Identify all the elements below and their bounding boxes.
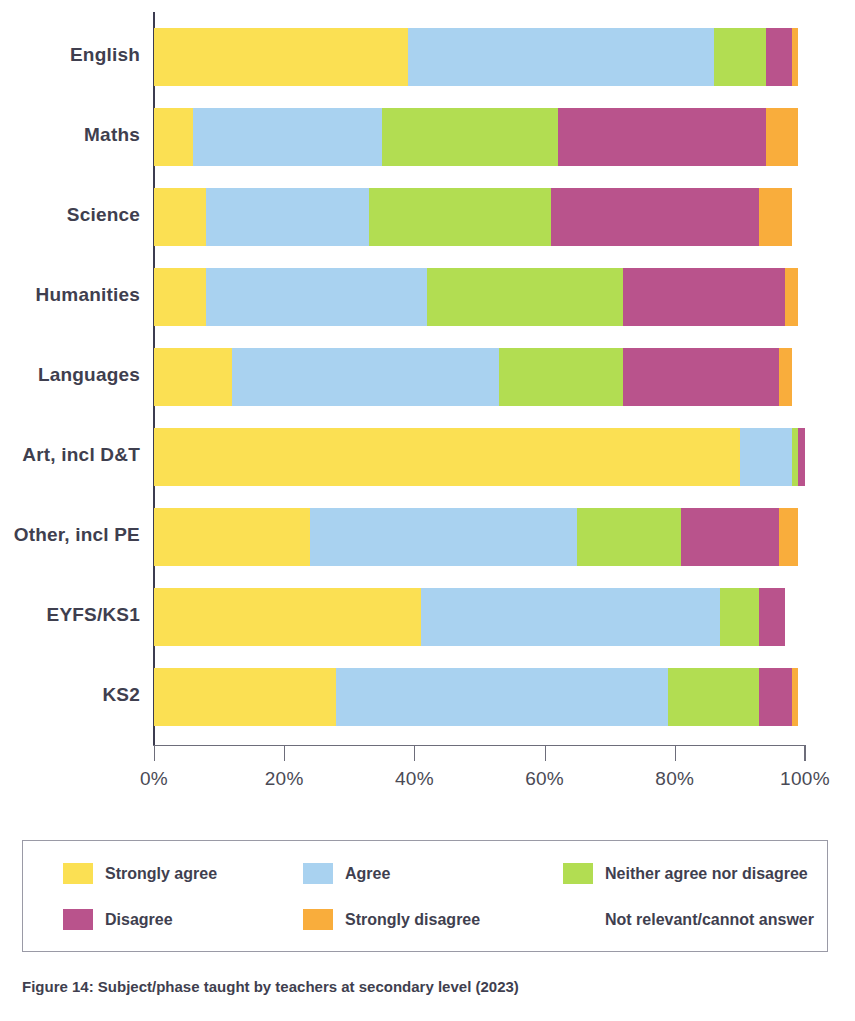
bar-segment-1 xyxy=(154,428,740,486)
bar-segment-3 xyxy=(427,268,622,326)
legend-item[interactable]: Not relevant/cannot answer xyxy=(563,909,814,930)
bar-segment-4 xyxy=(798,428,805,486)
x-tick xyxy=(284,746,285,761)
bar-segment-1 xyxy=(154,588,421,646)
legend-swatch-icon xyxy=(303,863,333,884)
bar-segment-1 xyxy=(154,668,336,726)
x-tick-label: 80% xyxy=(655,768,694,790)
category-label: Languages xyxy=(0,364,140,386)
bar-segment-2 xyxy=(193,108,382,166)
legend-label: Neither agree nor disagree xyxy=(605,865,808,883)
chart-row: Languages xyxy=(0,348,855,406)
category-label: Other, incl PE xyxy=(0,524,140,546)
stacked-bar xyxy=(154,28,798,86)
bar-segment-2 xyxy=(740,428,792,486)
legend-label: Not relevant/cannot answer xyxy=(605,911,814,929)
bar-segment-3 xyxy=(714,28,766,86)
figure-caption: Figure 14: Subject/phase taught by teach… xyxy=(22,978,842,995)
bar-segment-4 xyxy=(681,508,779,566)
x-axis-line xyxy=(153,745,806,746)
x-tick-label: 0% xyxy=(140,768,168,790)
chart-row: Maths xyxy=(0,108,855,166)
legend-swatch-icon xyxy=(563,909,593,930)
bar-segment-2 xyxy=(408,28,714,86)
bar-segment-3 xyxy=(668,668,759,726)
legend-swatch-icon xyxy=(63,909,93,930)
chart-row: KS2 xyxy=(0,668,855,726)
bar-segment-5 xyxy=(779,508,799,566)
bar-segment-4 xyxy=(623,348,779,406)
bar-segment-4 xyxy=(766,28,792,86)
bar-segment-5 xyxy=(792,668,799,726)
legend-item[interactable]: Agree xyxy=(303,863,390,884)
bar-segment-4 xyxy=(759,588,785,646)
stacked-bar xyxy=(154,268,798,326)
bar-segment-4 xyxy=(558,108,766,166)
bar-segment-2 xyxy=(336,668,668,726)
bar-segment-2 xyxy=(310,508,577,566)
chart-row: EYFS/KS1 xyxy=(0,588,855,646)
category-label: EYFS/KS1 xyxy=(0,604,140,626)
chart-row: Art, incl D&T xyxy=(0,428,855,486)
bar-segment-2 xyxy=(421,588,720,646)
chart-row: Other, incl PE xyxy=(0,508,855,566)
legend-swatch-icon xyxy=(63,863,93,884)
bar-segment-1 xyxy=(154,108,193,166)
bar-segment-2 xyxy=(206,268,427,326)
x-tick xyxy=(675,746,676,761)
x-tick-label: 40% xyxy=(395,768,434,790)
legend-swatch-icon xyxy=(563,863,593,884)
bar-segment-3 xyxy=(382,108,558,166)
chart-row: Humanities xyxy=(0,268,855,326)
stacked-bar xyxy=(154,108,798,166)
bar-segment-5 xyxy=(759,188,792,246)
chart-row: Science xyxy=(0,188,855,246)
legend-item[interactable]: Strongly agree xyxy=(63,863,217,884)
stacked-bar xyxy=(154,188,792,246)
legend-swatch-icon xyxy=(303,909,333,930)
stacked-bar xyxy=(154,588,785,646)
x-tick xyxy=(805,746,806,761)
bar-segment-5 xyxy=(792,28,799,86)
x-tick-label: 60% xyxy=(525,768,564,790)
stacked-bar xyxy=(154,668,798,726)
bar-segment-3 xyxy=(720,588,759,646)
legend-item[interactable]: Strongly disagree xyxy=(303,909,480,930)
legend-label: Strongly agree xyxy=(105,865,217,883)
x-tick-label: 20% xyxy=(265,768,304,790)
bar-segment-3 xyxy=(499,348,623,406)
bar-segment-5 xyxy=(766,108,799,166)
legend-label: Strongly disagree xyxy=(345,911,480,929)
legend-label: Agree xyxy=(345,865,390,883)
bar-segment-4 xyxy=(623,268,786,326)
legend-item[interactable]: Disagree xyxy=(63,909,173,930)
x-tick xyxy=(414,746,415,761)
bar-segment-1 xyxy=(154,28,408,86)
category-label: Art, incl D&T xyxy=(0,444,140,466)
bar-segment-1 xyxy=(154,348,232,406)
stacked-bar xyxy=(154,508,798,566)
x-tick xyxy=(154,746,155,761)
category-label: KS2 xyxy=(0,684,140,706)
bar-segment-4 xyxy=(759,668,792,726)
bar-segment-3 xyxy=(369,188,551,246)
category-label: Maths xyxy=(0,124,140,146)
category-label: Science xyxy=(0,204,140,226)
bar-segment-2 xyxy=(206,188,369,246)
legend-item[interactable]: Neither agree nor disagree xyxy=(563,863,808,884)
category-label: English xyxy=(0,44,140,66)
stacked-bar xyxy=(154,428,805,486)
bar-segment-1 xyxy=(154,508,310,566)
bar-segment-3 xyxy=(577,508,681,566)
stacked-bar-chart: 0%20%40%60%80%100% EnglishMathsScienceHu… xyxy=(0,0,855,820)
bar-segment-5 xyxy=(779,348,792,406)
bar-segment-2 xyxy=(232,348,499,406)
x-tick-label: 100% xyxy=(780,768,830,790)
bar-segment-5 xyxy=(785,268,798,326)
bar-segment-1 xyxy=(154,188,206,246)
x-tick xyxy=(545,746,546,761)
bar-segment-1 xyxy=(154,268,206,326)
bar-segment-4 xyxy=(551,188,759,246)
legend-label: Disagree xyxy=(105,911,173,929)
chart-row: English xyxy=(0,28,855,86)
